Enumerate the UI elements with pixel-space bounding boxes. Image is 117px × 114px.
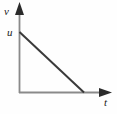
velocity-decay-line xyxy=(20,32,85,93)
y-intercept-label: u xyxy=(7,27,13,38)
y-axis-label: v xyxy=(4,6,9,17)
velocity-time-graph-figure: v u t xyxy=(0,0,117,114)
x-axis-label: t xyxy=(104,97,107,108)
v-axis-arrowhead-icon xyxy=(15,2,24,15)
graph-canvas xyxy=(0,0,117,114)
